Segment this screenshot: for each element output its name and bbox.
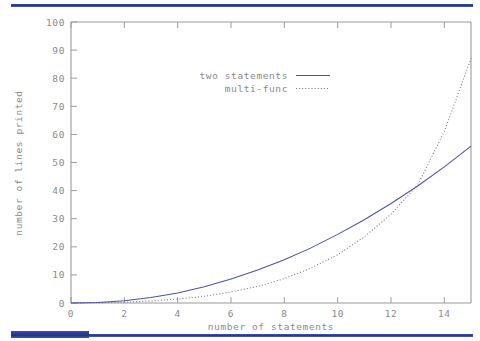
- y-tick-label: 40: [52, 185, 65, 196]
- x-tick-label: 8: [281, 308, 287, 319]
- legend-label-multi-func: multi-func: [225, 83, 288, 94]
- line-chart: 0 10 20 30 40 50: [0, 0, 480, 341]
- y-tick-label: 0: [59, 298, 65, 309]
- x-tick-6: 6: [228, 22, 234, 319]
- y-tick-label: 20: [52, 241, 65, 252]
- x-tick-label: 10: [331, 308, 344, 319]
- y-tick-label: 80: [52, 73, 65, 84]
- y-tick-30: 30: [52, 213, 77, 224]
- x-tick-2: 2: [121, 22, 127, 319]
- y-tick-50: 50: [52, 157, 77, 168]
- x-tick-label: 0: [68, 308, 74, 319]
- series-two-statements: [71, 146, 471, 303]
- y-tick-60: 60: [52, 129, 77, 140]
- y-tick-label: 60: [52, 129, 65, 140]
- legend-label-two-statements: two statements: [200, 70, 288, 81]
- y-tick-90: 90: [52, 45, 77, 56]
- x-tick-label: 6: [228, 308, 234, 319]
- chart-axes: [71, 22, 471, 303]
- x-tick-label: 14: [438, 308, 451, 319]
- x-tick-label: 4: [175, 308, 181, 319]
- y-axis-title: number of lines printed: [13, 90, 24, 235]
- y-tick-20: 20: [52, 241, 77, 252]
- bottom-divider-rule-thick: [11, 331, 89, 338]
- y-tick-40: 40: [52, 185, 77, 196]
- y-tick-80: 80: [52, 73, 77, 84]
- y-tick-label: 10: [52, 269, 65, 280]
- x-tick-label: 12: [385, 308, 398, 319]
- y-tick-10: 10: [52, 269, 77, 280]
- series-multi-func: [71, 59, 471, 304]
- y-tick-label: 90: [52, 45, 65, 56]
- y-tick-label: 50: [52, 157, 65, 168]
- x-axis-title: number of statements: [208, 321, 334, 332]
- y-tick-100: 100: [46, 17, 77, 28]
- chart-legend: two statements multi-func: [200, 70, 330, 94]
- x-tick-10: 10: [331, 22, 344, 319]
- chart-screenshot: 0 10 20 30 40 50: [0, 0, 480, 341]
- y-tick-70: 70: [52, 101, 77, 112]
- x-tick-8: 8: [281, 22, 287, 319]
- x-tick-4: 4: [175, 22, 181, 319]
- axis-left-bottom: [71, 22, 471, 303]
- x-tick-label: 2: [121, 308, 127, 319]
- bottom-divider-rule-thin: [89, 334, 473, 337]
- x-tick-12: 12: [385, 22, 398, 319]
- y-axis-ticks: 0 10 20 30 40 50: [46, 17, 77, 309]
- y-tick-label: 100: [46, 17, 65, 28]
- x-axis-ticks: 0 2 4 6 8: [68, 22, 451, 319]
- y-tick-label: 70: [52, 101, 65, 112]
- y-tick-label: 30: [52, 213, 65, 224]
